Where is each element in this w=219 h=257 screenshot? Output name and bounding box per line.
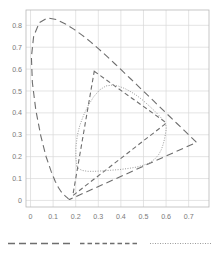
x-tick-label-7: 0.7 <box>184 213 194 221</box>
x-tick-label-1: 0.1 <box>48 213 58 221</box>
y-axis-tick-labels: 00.10.20.30.40.50.60.70.8 <box>12 22 22 205</box>
y-tick-label-1: 0.1 <box>12 175 22 183</box>
y-tick-label-7: 0.7 <box>12 44 22 52</box>
chromaticity-diagram-figure: 00.10.20.30.40.50.60.7 00.10.20.30.40.50… <box>0 0 219 257</box>
y-tick-label-6: 0.6 <box>12 66 22 74</box>
x-tick-label-2: 0.2 <box>71 213 81 221</box>
x-tick-label-5: 0.5 <box>139 213 149 221</box>
x-tick-label-3: 0.3 <box>93 213 103 221</box>
y-tick-label-5: 0.5 <box>12 88 22 96</box>
x-tick-label-6: 0.6 <box>161 213 171 221</box>
y-tick-label-8: 0.8 <box>12 22 22 30</box>
y-tick-label-3: 0.3 <box>12 131 22 139</box>
y-tick-label-4: 0.4 <box>12 109 22 117</box>
x-tick-label-4: 0.4 <box>116 213 126 221</box>
y-tick-label-0: 0 <box>18 197 22 205</box>
x-tick-label-0: 0 <box>29 213 33 221</box>
y-tick-label-2: 0.2 <box>12 153 22 161</box>
chart-canvas: 00.10.20.30.40.50.60.7 00.10.20.30.40.50… <box>0 0 219 257</box>
